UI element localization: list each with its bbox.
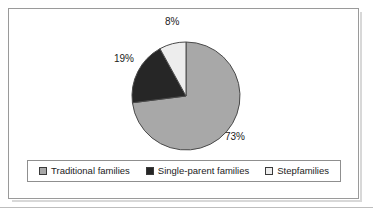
figure-border-shadow-bottom [12, 200, 362, 202]
page-divider-rule [0, 207, 373, 208]
pie-label-stepfamilies: 8% [165, 16, 179, 27]
legend-label-traditional-families: Traditional families [51, 166, 130, 176]
figure-root: 8% 19% 73% Traditional families Single-p… [0, 0, 373, 213]
legend-label-single-parent-families: Single-parent families [158, 166, 249, 176]
pie-label-single-parent-families: 19% [114, 53, 134, 64]
pie-chart-plot-area: 8% 19% 73% [20, 14, 350, 156]
legend-item-stepfamilies: Stepfamilies [265, 166, 329, 176]
legend-swatch-icon-stepfamilies [265, 167, 273, 175]
pie-chart-svg [20, 14, 350, 156]
figure-border-shadow-right [360, 12, 362, 202]
pie-label-traditional-families: 73% [225, 131, 245, 142]
legend-swatch-icon-traditional-families [39, 167, 47, 175]
legend-label-stepfamilies: Stepfamilies [277, 166, 329, 176]
legend-swatch-icon-single-parent-families [146, 167, 154, 175]
chart-legend: Traditional families Single-parent famil… [27, 160, 341, 182]
legend-item-traditional-families: Traditional families [39, 166, 130, 176]
pie-slices [132, 42, 240, 150]
legend-item-single-parent-families: Single-parent families [146, 166, 249, 176]
